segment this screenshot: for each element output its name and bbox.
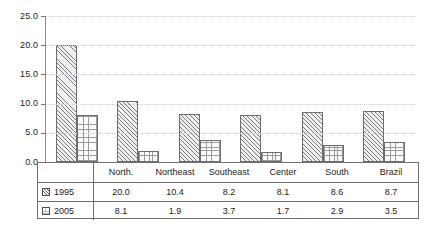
table-cell: 8.1: [94, 202, 148, 220]
bar-1995-northeast[interactable]: [117, 101, 138, 162]
table-cell: 1.9: [148, 202, 202, 220]
chart-figure: 0.05.010.015.020.025.0 North.NortheastSo…: [0, 0, 427, 231]
gridline: [46, 45, 415, 46]
table-header-cell: Center: [256, 163, 310, 182]
y-axis-tick-label: 10.0: [20, 99, 38, 108]
bar-2005-southeast[interactable]: [200, 140, 221, 162]
bar-1995-southeast[interactable]: [179, 114, 200, 162]
bar-group: [354, 0, 416, 162]
table-header-cells: North.NortheastSoutheastCenterSouthBrazi…: [94, 163, 418, 182]
bar-2005-center[interactable]: [261, 152, 282, 162]
table-cell: 8.1: [256, 183, 310, 201]
gridline: [46, 104, 415, 105]
bar-groups: [46, 0, 415, 162]
y-axis: 0.05.010.015.020.025.0: [0, 0, 44, 170]
table-cell: 10.4: [148, 183, 202, 201]
table-cell: 3.7: [202, 202, 256, 220]
plot-area: 0.05.010.015.020.025.0: [0, 0, 427, 170]
bar-1995-center[interactable]: [240, 115, 261, 162]
table-header-cell: Brazil: [364, 163, 418, 182]
table-cell: 2.9: [310, 202, 364, 220]
table-cell: 8.7: [364, 183, 418, 201]
bar-group: [108, 0, 170, 162]
table-row-cells-1995: 20.010.48.28.18.68.7: [94, 183, 418, 201]
bar-group: [169, 0, 231, 162]
bar-group: [46, 0, 108, 162]
table-cell: 8.2: [202, 183, 256, 201]
table-row: 2005 8.11.93.71.72.93.5: [38, 201, 418, 220]
table-cell: 3.5: [364, 202, 418, 220]
gridline: [46, 133, 415, 134]
y-axis-tick-label: 20.0: [20, 41, 38, 50]
bar-group: [231, 0, 293, 162]
bar-2005-northeast[interactable]: [138, 151, 159, 162]
legend-item-2005[interactable]: 2005: [38, 202, 94, 220]
table-row: 1995 20.010.48.28.18.68.7: [38, 182, 418, 201]
table-header-cell: South: [310, 163, 364, 182]
table-cell: 1.7: [256, 202, 310, 220]
bar-2005-north[interactable]: [77, 115, 98, 162]
bar-1995-south[interactable]: [302, 112, 323, 162]
bar-group: [292, 0, 354, 162]
table-header-cell: Northeast: [148, 163, 202, 182]
legend-item-1995[interactable]: 1995: [38, 183, 94, 201]
table-header-cell: North.: [94, 163, 148, 182]
table-cell: 8.6: [310, 183, 364, 201]
table-header-row: North.NortheastSoutheastCenterSouthBrazi…: [38, 163, 418, 182]
y-axis-tick-label: 15.0: [20, 70, 38, 79]
table-cell: 20.0: [94, 183, 148, 201]
bar-1995-brazil[interactable]: [363, 111, 384, 162]
bar-2005-brazil[interactable]: [384, 142, 405, 162]
bar-2005-south[interactable]: [323, 145, 344, 162]
gridline: [46, 16, 415, 17]
legend-label: 2005: [54, 207, 74, 216]
gridline: [46, 74, 415, 75]
table-header-cell: Southeast: [202, 163, 256, 182]
legend-swatch-icon: [42, 207, 50, 215]
y-axis-tick-label: 25.0: [20, 12, 38, 21]
table-row-cells-2005: 8.11.93.71.72.93.5: [94, 202, 418, 220]
data-table: North.NortheastSoutheastCenterSouthBrazi…: [37, 162, 419, 219]
y-axis-tick-label: 5.0: [25, 128, 38, 137]
table-corner-cell: [38, 163, 94, 182]
legend-label: 1995: [54, 188, 74, 197]
legend-swatch-icon: [42, 188, 50, 196]
